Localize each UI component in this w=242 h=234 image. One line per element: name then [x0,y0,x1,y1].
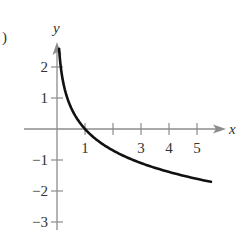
y-tick-label: −2 [32,183,48,199]
y-tick-label: −3 [32,214,48,230]
panel-label: ) [2,29,7,46]
y-tick-label: 2 [41,59,49,75]
function-graph: ) 1345 −3−2−112 x y [0,0,242,234]
axes [24,42,226,230]
x-axis-label: x [228,121,236,137]
x-tick-label: 5 [193,140,201,156]
x-tick-label: 1 [81,140,89,156]
x-tick-label: 4 [165,140,173,156]
y-axis-label: y [51,20,60,36]
y-ticks: −3−2−112 [32,59,63,230]
x-tick-label: 3 [137,140,145,156]
x-ticks: 1345 [81,123,201,156]
y-tick-label: 1 [41,90,49,106]
curve-line [59,49,211,182]
y-tick-label: −1 [32,152,48,168]
